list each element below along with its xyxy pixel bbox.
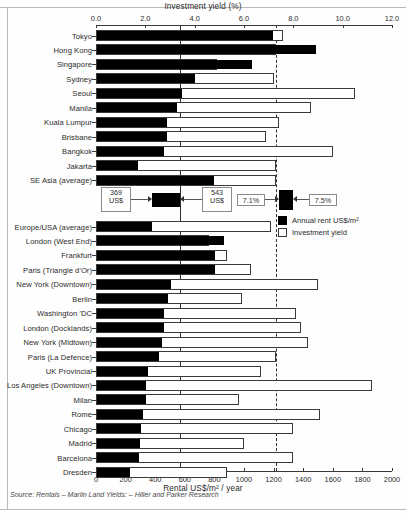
annual-rent-bar xyxy=(97,410,143,419)
bar-row-label: Singapore xyxy=(57,60,92,69)
legend-item: Annual rent US$/m² xyxy=(278,216,359,225)
annual-rent-bar xyxy=(97,453,139,462)
bar-row: New York (Downtown) xyxy=(96,279,392,290)
bar-row: Rome xyxy=(96,409,392,420)
annual-rent-bar xyxy=(97,424,141,433)
top-axis-tick-label: 12.0 xyxy=(385,14,399,23)
bar-row: Los Angeles (Downtown) xyxy=(96,380,392,391)
bar-row: Sydney xyxy=(96,73,392,84)
annual-rent-bar xyxy=(97,294,168,303)
bar-row-label: Paris (Triangle d'Or) xyxy=(23,265,92,274)
top-axis-tick-label: 8.0 xyxy=(288,14,298,23)
bar-row-label: Frankfurt xyxy=(61,251,92,260)
annual-rent-bar xyxy=(97,367,148,376)
investment-yield-bar xyxy=(96,146,333,157)
investment-yield-bar xyxy=(96,322,301,333)
bar-row-label: London (West End) xyxy=(26,236,92,245)
callout-yield-high: 7.5% xyxy=(309,194,337,206)
annual-rent-bar xyxy=(97,132,167,141)
top-axis-tick xyxy=(195,25,196,28)
bar-row: Dresden xyxy=(96,467,392,478)
bar-row-label: Milan xyxy=(74,395,92,404)
bar-row-label: Paris (La Defence) xyxy=(28,352,92,361)
annual-rent-bar xyxy=(97,309,164,318)
annual-rent-bar xyxy=(97,439,140,448)
investment-yield-bar xyxy=(96,351,276,362)
bar-row: Jakarta xyxy=(96,160,392,171)
investment-yield-bar xyxy=(96,102,311,113)
annotation-rent-bar xyxy=(152,193,180,207)
annual-rent-bar xyxy=(97,60,252,69)
bar-row: Paris (La Defence) xyxy=(96,351,392,362)
bar-row: Chicago xyxy=(96,423,392,434)
bar-row: Hong Kong xyxy=(96,44,392,55)
bar-row: Tokyo xyxy=(96,30,392,41)
annual-rent-bar xyxy=(97,31,273,40)
bar-row-label: Tokyo xyxy=(72,31,92,40)
annual-rent-bar xyxy=(97,251,215,260)
investment-yield-bar xyxy=(96,175,276,186)
annual-rent-bar xyxy=(97,89,182,98)
investment-yield-bar xyxy=(96,44,276,55)
chart-figure: Investment yield (%) 0.02.04.06.08.010.0… xyxy=(0,0,406,517)
bar-row-label: Chicago xyxy=(64,424,92,433)
annual-rent-bar xyxy=(97,338,162,347)
bar-row-label: SE Asia (average) xyxy=(30,176,92,185)
legend-label: Investment yield xyxy=(292,228,347,237)
arrow-line-yield-high xyxy=(297,199,309,200)
bar-row-label: New York (Midtown) xyxy=(24,338,92,347)
annual-rent-bar xyxy=(97,236,224,245)
annual-rent-bar xyxy=(97,222,152,231)
callout-rent-low-unit: US$ xyxy=(104,197,128,205)
top-axis-tick-label: 2.0 xyxy=(140,14,150,23)
bar-row: London (Docklands) xyxy=(96,322,392,333)
annual-rent-bar xyxy=(97,118,167,127)
investment-yield-bar xyxy=(96,423,293,434)
bar-row: Bangkok xyxy=(96,146,392,157)
top-axis-tick xyxy=(96,25,97,28)
top-axis-tick xyxy=(343,25,344,28)
annual-rent-bar xyxy=(97,74,195,83)
investment-yield-bar xyxy=(96,235,209,246)
annual-rent-bar xyxy=(97,280,171,289)
bar-row-label: Europe/USA (average) xyxy=(15,222,92,231)
bar-row-label: Hong Kong xyxy=(54,45,92,54)
investment-yield-bar xyxy=(96,467,227,478)
arrow-line-yield-low xyxy=(265,199,275,200)
bar-row: Madrid xyxy=(96,438,392,449)
investment-yield-bar xyxy=(96,308,296,319)
top-axis-tick-label: 6.0 xyxy=(239,14,249,23)
annotation-band: 369 US$ 543 US$ 7.1% 7.5% xyxy=(0,186,406,218)
annual-rent-bar xyxy=(97,176,214,185)
callout-rent-high: 543 US$ xyxy=(202,187,232,212)
annual-rent-bar xyxy=(97,381,146,390)
bar-row-label: Los Angeles (Downtown) xyxy=(7,381,92,390)
callout-rent-high-unit: US$ xyxy=(205,197,229,205)
bar-row-label: Rome xyxy=(72,410,92,419)
bar-row: Singapore xyxy=(96,59,392,70)
investment-yield-bar xyxy=(96,279,318,290)
investment-yield-bar xyxy=(96,131,266,142)
bar-row-label: Berlin xyxy=(72,294,92,303)
bar-row-label: Bangkok xyxy=(62,147,92,156)
bar-row: Milan xyxy=(96,394,392,405)
investment-yield-bar xyxy=(96,380,372,391)
bar-row: SE Asia (average) xyxy=(96,175,392,186)
annual-rent-bar xyxy=(97,468,130,477)
bar-row-label: UK Provincial xyxy=(46,367,92,376)
bar-row: UK Provincial xyxy=(96,366,392,377)
investment-yield-bar xyxy=(96,452,293,463)
top-axis-tick xyxy=(244,25,245,28)
arrow-line-rent-low xyxy=(131,199,148,200)
annual-rent-bar xyxy=(97,45,316,54)
arrow-line-rent-high xyxy=(184,199,202,200)
annotation-yield-bar xyxy=(279,190,293,210)
bar-row-label: Seoul xyxy=(72,89,92,98)
investment-yield-bar xyxy=(96,264,251,275)
investment-yield-bar xyxy=(96,394,239,405)
investment-yield-bar xyxy=(96,293,242,304)
top-axis-tick-label: 0.0 xyxy=(91,14,101,23)
bar-row-label: Sydney xyxy=(66,74,92,83)
investment-yield-bar xyxy=(96,30,283,41)
investment-yield-bar xyxy=(96,221,271,232)
